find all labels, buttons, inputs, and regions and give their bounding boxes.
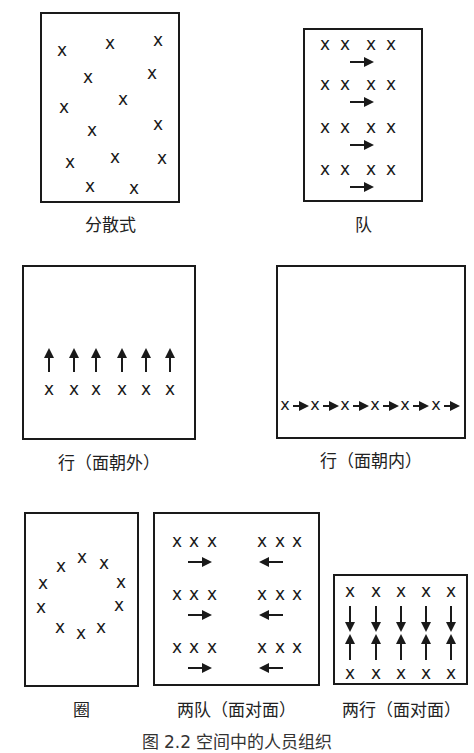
figure-caption: 图 2.2 空间中的人员组织: [0, 728, 474, 753]
